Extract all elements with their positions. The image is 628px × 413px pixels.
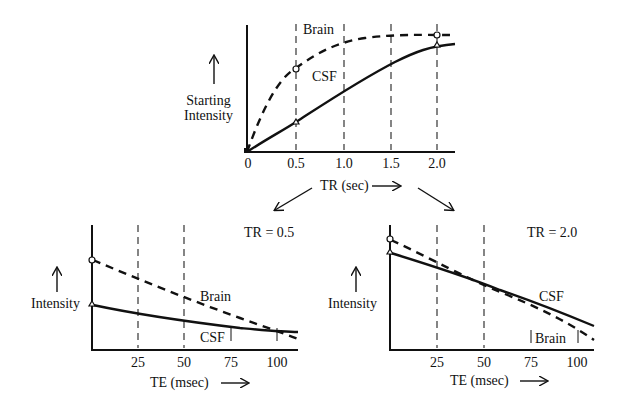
top-y-label: Starting Intensity: [184, 93, 233, 123]
top-brain-label: Brain: [303, 22, 334, 37]
top-x-tick-1.5: 1.5: [382, 156, 400, 171]
br-y-label: Intensity: [328, 296, 377, 311]
top-y-label-line1: Starting: [184, 93, 233, 108]
marker-csf-2.0: [434, 42, 440, 47]
bl-y-label: Intensity: [31, 296, 80, 311]
top-y-label-line2: Intensity: [184, 108, 233, 123]
arrow-to-tr20: [418, 188, 453, 210]
br-x-tick-75: 75: [524, 355, 538, 370]
bl-x-tick-50: 50: [177, 355, 191, 370]
bl-csf-label: CSF: [200, 330, 225, 345]
marker-brain-0.5: [293, 66, 299, 72]
top-csf-label: CSF: [312, 69, 337, 84]
top-brain-curve: [247, 35, 455, 152]
br-x-tick-25: 25: [430, 355, 444, 370]
bl-title: TR = 0.5: [244, 225, 294, 240]
bl-x-label: TE (msec): [150, 375, 209, 390]
top-x-tick-0.5: 0.5: [287, 156, 305, 171]
br-title: TR = 2.0: [527, 225, 577, 240]
bl-brain-label: Brain: [200, 289, 231, 304]
br-x-tick-50: 50: [477, 355, 491, 370]
diagram-canvas: [0, 0, 628, 413]
br-brain-label: Brain: [535, 331, 566, 346]
top-x-label: TR (sec): [320, 178, 369, 193]
top-x-tick-2.0: 2.0: [428, 156, 446, 171]
bl-x-tick-100: 100: [267, 355, 288, 370]
marker-brain-2.0: [434, 32, 440, 38]
top-gridlines: [296, 24, 437, 150]
br-x-tick-100: 100: [567, 355, 588, 370]
arrow-to-tr05: [275, 188, 312, 210]
bl-x-tick-75: 75: [224, 355, 238, 370]
top-x-tick-1.0: 1.0: [335, 156, 353, 171]
br-x-label: TE (msec): [450, 373, 509, 388]
top-x-tick-0: 0: [245, 156, 252, 171]
top-csf-curve: [247, 44, 455, 152]
bl-brain-curve: [93, 260, 298, 339]
bl-x-tick-25: 25: [131, 355, 145, 370]
br-csf-label: CSF: [539, 289, 564, 304]
